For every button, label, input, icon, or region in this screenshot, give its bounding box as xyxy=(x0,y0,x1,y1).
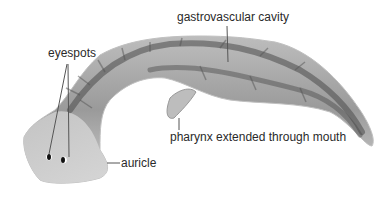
label-auricle: auricle xyxy=(121,156,156,170)
planarian-illustration xyxy=(0,0,388,205)
label-gastrovascular-cavity: gastrovascular cavity xyxy=(177,10,289,24)
label-eyespots: eyespots xyxy=(48,46,96,60)
label-pharynx: pharynx extended through mouth xyxy=(170,130,346,144)
pharynx xyxy=(167,89,196,118)
